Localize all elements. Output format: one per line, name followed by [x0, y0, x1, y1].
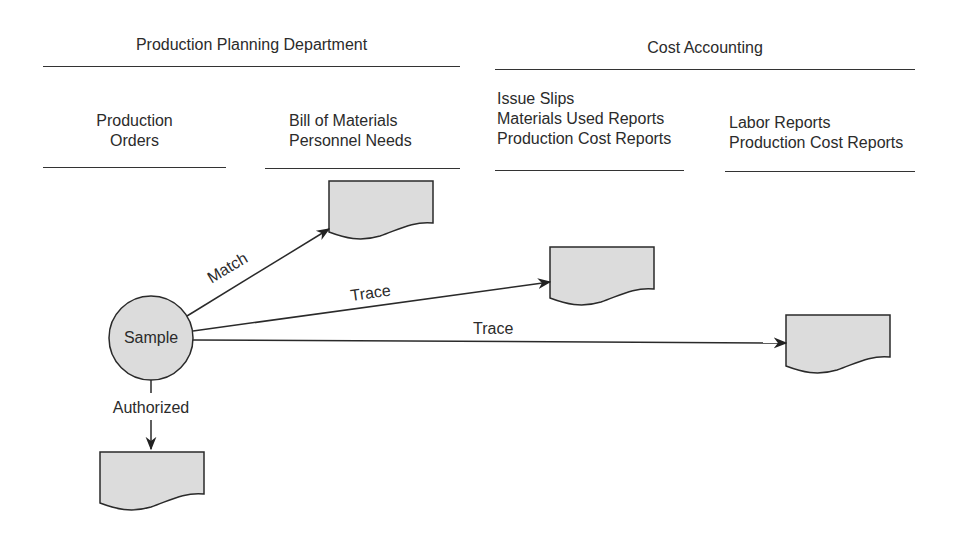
authorized-label: Authorized	[101, 398, 201, 418]
trace-label-labor-reports: Trace	[473, 319, 513, 339]
production-orders-document	[100, 452, 204, 510]
trace-arrow-labor-reports	[193, 340, 786, 343]
flow-diagram	[0, 0, 968, 534]
bill-of-materials-document	[329, 181, 433, 239]
sample-label: Sample	[109, 328, 193, 348]
labor-reports-document	[786, 315, 890, 373]
issue-slips-document	[550, 247, 654, 305]
